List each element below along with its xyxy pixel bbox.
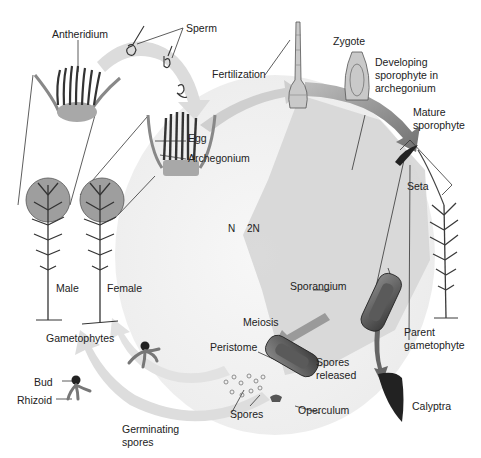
mature-sporophyte-label-line1: Mature <box>413 106 446 119</box>
mature-sporophyte-label-line2: sporophyte <box>413 119 465 132</box>
developing-sporophyte-label-line3: archegonium <box>375 82 436 95</box>
seta-label: Seta <box>407 180 429 193</box>
germinating-spores-label-line1: Germinating <box>122 423 179 436</box>
meiosis-label: Meiosis <box>243 316 279 329</box>
parent-gametophyte-label-line1: Parent <box>404 326 435 339</box>
sperm-label: Sperm <box>186 22 217 35</box>
peristome-label: Peristome <box>210 341 257 354</box>
antheridium-label: Antheridium <box>52 28 108 41</box>
archegonium-label: Archegonium <box>188 152 250 165</box>
calyptra-label: Calyptra <box>412 400 451 413</box>
spores-label: Spores <box>230 408 263 421</box>
sporangium-label: Sporangium <box>290 280 347 293</box>
female-label: Female <box>107 282 142 295</box>
developing-sporophyte-label-line1: Developing <box>375 56 428 69</box>
gametophytes-label: Gametophytes <box>46 332 114 345</box>
bud-rhizoid-illustration <box>68 376 90 400</box>
moss-life-cycle-diagram: Antheridium Sperm Fertilization Zygote D… <box>0 0 481 458</box>
calyptra-illustration <box>378 373 404 422</box>
zygote-label: Zygote <box>333 35 365 48</box>
zygote-illustration <box>289 22 307 108</box>
parent-gametophyte-label-line2: gametophyte <box>404 339 465 352</box>
diploid-label: 2N <box>247 223 260 236</box>
spores-released-label-line1: Spores <box>316 356 349 369</box>
male-label: Male <box>56 282 79 295</box>
developing-sporophyte-label-line2: sporophyte in <box>375 69 438 82</box>
haploid-label: N <box>228 223 235 236</box>
antheridium-illustration <box>35 66 120 122</box>
spores-released-label-line2: released <box>316 369 356 382</box>
bud-label: Bud <box>34 376 53 389</box>
rhizoid-label: Rhizoid <box>17 394 52 407</box>
operculum-label: Operculum <box>298 404 349 417</box>
developing-sporophyte-illustration <box>345 52 369 100</box>
germinating-spores-label-line2: spores <box>122 436 154 449</box>
egg-label: Egg <box>188 132 207 145</box>
male-gametophyte-illustration <box>26 178 70 320</box>
fertilization-label: Fertilization <box>212 68 266 81</box>
